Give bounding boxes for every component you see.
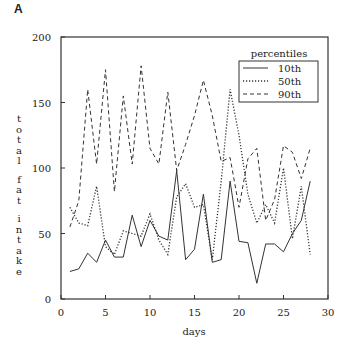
x-tick-label: 30 (322, 307, 335, 318)
x-tick-label: 10 (144, 307, 157, 318)
legend: percentiles10th50th90th (239, 48, 318, 102)
x-tick-label: 5 (102, 307, 108, 318)
svg-text:i: i (17, 213, 20, 224)
series-50th-line (70, 89, 310, 259)
x-tick-label: 15 (188, 307, 201, 318)
svg-text:t: t (17, 134, 21, 145)
svg-text:o: o (16, 124, 22, 135)
svg-text:e: e (16, 266, 22, 277)
x-tick-label: 20 (233, 307, 246, 318)
svg-text:n: n (16, 224, 23, 235)
svg-text:t: t (17, 113, 21, 124)
svg-text:f: f (17, 174, 22, 185)
svg-text:l: l (17, 155, 20, 166)
y-tick-label: 0 (45, 294, 51, 305)
y-tick-label: 150 (32, 98, 51, 109)
y-tick-label: 200 (32, 32, 51, 43)
svg-text:a: a (16, 245, 22, 256)
legend-entry-10th: 10th (278, 63, 302, 74)
y-tick-label: 100 (32, 163, 51, 174)
svg-text:k: k (16, 255, 23, 266)
svg-text:a: a (16, 184, 22, 195)
legend-entry-90th: 90th (278, 89, 302, 100)
svg-text:t: t (17, 195, 21, 206)
legend-entry-50th: 50th (278, 76, 302, 87)
y-axis-label: totalfatintake (16, 113, 23, 277)
x-axis-label: days (182, 326, 205, 337)
y-tick-label: 50 (38, 229, 51, 240)
svg-text:t: t (17, 234, 21, 245)
x-tick-label: 0 (58, 307, 64, 318)
svg-text:a: a (16, 145, 22, 156)
series-10th-line (70, 171, 310, 284)
x-tick-label: 25 (277, 307, 290, 318)
line-chart: 051015202530050100150200 days totalfatin… (0, 0, 348, 354)
legend-title: percentiles (251, 48, 308, 59)
